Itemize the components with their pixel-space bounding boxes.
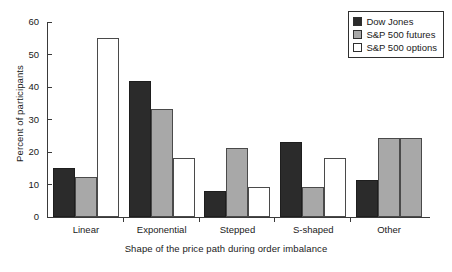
- x-tick-mark: [274, 217, 275, 222]
- bar: [400, 138, 422, 217]
- y-tick-label: 60: [0, 15, 39, 28]
- legend-item-sp500-options: S&P 500 options: [353, 41, 437, 54]
- y-tick-label: 20: [0, 145, 39, 158]
- y-tick-label: 40: [0, 80, 39, 93]
- bar: [151, 109, 173, 217]
- legend-item-label: S&P 500 futures: [366, 29, 435, 40]
- bar-group-exponential: [124, 22, 200, 217]
- bar: [75, 177, 97, 217]
- bar: [302, 187, 324, 217]
- bar: [324, 158, 346, 217]
- x-axis-tick-labels: LinearExponentialSteppedS-shapedOther: [48, 224, 427, 235]
- y-tick-label: 30: [0, 113, 39, 126]
- bar: [53, 168, 75, 217]
- x-axis-line: [47, 217, 430, 218]
- x-tick-mark: [123, 217, 124, 222]
- bar: [356, 180, 378, 217]
- bar: [226, 148, 248, 217]
- bar: [97, 38, 119, 217]
- x-tick-label: Stepped: [200, 224, 276, 235]
- y-tick-label: 50: [0, 48, 39, 61]
- x-axis-title: Shape of the price path during order imb…: [0, 243, 452, 254]
- legend: Dow Jones S&P 500 futures S&P 500 option…: [348, 11, 444, 58]
- x-tick-label: Exponential: [124, 224, 200, 235]
- bar: [204, 191, 226, 217]
- bar: [378, 138, 400, 217]
- bar: [248, 187, 270, 217]
- bar-group-linear: [48, 22, 124, 217]
- bar-group-s-shaped: [275, 22, 351, 217]
- bar: [280, 142, 302, 217]
- bar: [129, 81, 151, 218]
- x-tick-mark: [350, 217, 351, 222]
- x-tick-label: S-shaped: [275, 224, 351, 235]
- legend-swatch-icon: [353, 17, 362, 26]
- legend-item-sp500-futures: S&P 500 futures: [353, 28, 437, 41]
- legend-swatch-icon: [353, 43, 362, 52]
- y-tick-label: 10: [0, 178, 39, 191]
- bar: [173, 158, 195, 217]
- bar-group-stepped: [200, 22, 276, 217]
- legend-item-dow-jones: Dow Jones: [353, 15, 437, 28]
- x-tick-label: Linear: [48, 224, 124, 235]
- legend-swatch-icon: [353, 30, 362, 39]
- legend-item-label: Dow Jones: [366, 16, 413, 27]
- x-tick-label: Other: [351, 224, 427, 235]
- legend-item-label: S&P 500 options: [366, 42, 437, 53]
- y-tick-label: 0: [0, 210, 39, 223]
- x-tick-mark: [199, 217, 200, 222]
- bar-chart: Percent of participants 0102030405060 Li…: [0, 0, 452, 272]
